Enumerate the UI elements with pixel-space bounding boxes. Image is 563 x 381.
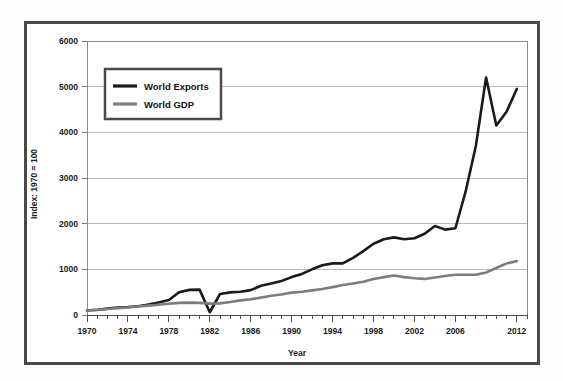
- x-tick-label: 1982: [200, 326, 219, 336]
- figure-frame: 0100020003000400050006000 19701974197819…: [24, 21, 540, 365]
- x-tick-label: 1998: [364, 326, 383, 336]
- x-tick-label: 1970: [78, 326, 97, 336]
- y-tick-label: 6000: [59, 36, 78, 46]
- y-axis-title: Index: 1970 = 100: [29, 149, 39, 219]
- legend-label-world-gdp: World GDP: [144, 99, 195, 110]
- plot-background: [27, 24, 537, 362]
- chart-root: 0100020003000400050006000 19701974197819…: [27, 24, 537, 362]
- x-tick-label: 1990: [282, 326, 301, 336]
- y-tick-label: 5000: [59, 82, 78, 92]
- chart-legend[interactable]: World Exports World GDP: [105, 69, 221, 119]
- x-tick-label: 2002: [405, 326, 424, 336]
- y-tick-label: 4000: [59, 127, 78, 137]
- x-tick-label: 2006: [446, 326, 465, 336]
- y-tick-label: 1000: [59, 264, 78, 274]
- page-background: 0100020003000400050006000 19701974197819…: [0, 0, 563, 381]
- legend-label-world-exports: World Exports: [144, 81, 209, 92]
- x-tick-label: 1978: [159, 326, 178, 336]
- y-tick-label: 2000: [59, 219, 78, 229]
- y-tick-label: 3000: [59, 173, 78, 183]
- line-chart: 0100020003000400050006000 19701974197819…: [27, 24, 537, 362]
- legend-box: [105, 69, 221, 119]
- x-tick-label: 1974: [118, 326, 137, 336]
- y-tick-label: 0: [73, 310, 78, 320]
- x-tick-label: 2012: [507, 326, 526, 336]
- x-tick-label: 1986: [241, 326, 260, 336]
- x-axis-title: Year: [288, 348, 307, 358]
- x-tick-label: 1994: [323, 326, 342, 336]
